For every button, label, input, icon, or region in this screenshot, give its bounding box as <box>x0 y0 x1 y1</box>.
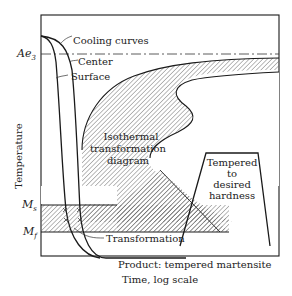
isothermal-label-2: transformation <box>90 143 167 154</box>
tempered-label-2: to <box>227 168 237 179</box>
transformation-label: Transformation <box>106 233 185 244</box>
ms-label: Ms <box>21 198 37 213</box>
center-label: Center <box>78 56 113 67</box>
tempered-label-3: desired <box>213 179 251 190</box>
ae3-label: Ae3 <box>16 47 36 62</box>
mf-label: Mf <box>22 225 38 240</box>
product-label: Product: tempered martensite <box>118 259 272 270</box>
tempered-label-1: Tempered <box>207 157 258 168</box>
leader-center <box>70 60 78 62</box>
x-axis-label: Time, log scale <box>122 274 198 285</box>
y-axis-label: Temperature <box>13 123 24 189</box>
cooling-curves-label: Cooling curves <box>73 35 149 46</box>
surface-label: Surface <box>71 71 110 82</box>
leader-cooling-curves <box>60 36 72 44</box>
isothermal-label-1: Isothermal <box>104 131 159 142</box>
ttt-diagram: Ae3 Ms Mf Temperature Time, log scale Co… <box>0 0 292 296</box>
tempered-label-4: hardness <box>209 190 255 201</box>
leader-surface <box>56 75 68 78</box>
isothermal-label-3: diagram <box>107 155 150 166</box>
